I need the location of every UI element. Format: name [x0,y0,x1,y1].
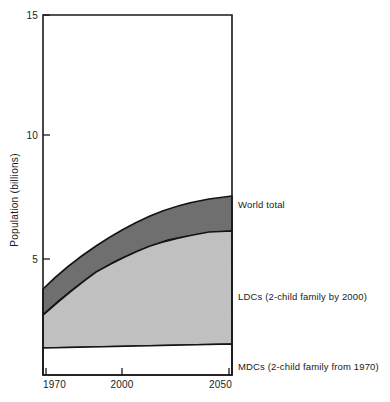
x-tick-label-2000: 2000 [110,379,133,390]
y-tick-label-15: 15 [26,10,38,21]
series-label-mdcs: MDCs (2-child family from 1970) [238,361,379,372]
chart-canvas: 15 10 5 1970 2000 2050 Population (billi… [0,0,390,402]
series-label-ldcs: LDCs (2-child family by 2000) [238,291,367,302]
y-tick-label-5: 5 [32,254,38,265]
population-projection-chart: 15 10 5 1970 2000 2050 Population (billi… [0,0,390,402]
x-tick-label-2050: 2050 [209,379,232,390]
y-axis-title: Population (billions) [9,153,20,247]
area-band-mdcs [43,344,232,375]
y-tick-label-10: 10 [26,130,38,141]
series-label-world-total: World total [238,199,285,210]
x-tick-label-1970: 1970 [43,379,66,390]
